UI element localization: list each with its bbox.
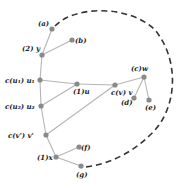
node-label-x: (1)x (37, 153, 53, 162)
edge-u2-vp (41, 106, 46, 135)
edge-u-v (77, 84, 115, 85)
node-label-y: (2) y (22, 44, 41, 53)
node-e (146, 97, 151, 102)
edge-u1-u (40, 80, 77, 84)
node-a (49, 26, 54, 31)
node-u2 (38, 103, 43, 108)
node-label-u: (1)u (73, 87, 90, 96)
edge-x-g (56, 157, 81, 166)
node-label-g: (g) (76, 170, 88, 179)
graph-diagram: (a)(b)(2) yc(u₁) u₁(1)uc(u₂) u₂c(v') v'(… (0, 0, 177, 188)
node-g (78, 163, 83, 168)
node-y (39, 52, 44, 57)
node-u1 (37, 77, 42, 82)
node-label-vp: c(v') v' (8, 131, 34, 140)
node-label-w: (c)w (131, 64, 149, 73)
node-label-a: (a) (38, 19, 49, 28)
edge-w-d (134, 77, 144, 98)
node-v (112, 82, 117, 87)
edge-x-f (56, 147, 79, 157)
node-b (69, 37, 74, 42)
node-label-f: (f) (81, 143, 91, 152)
node-label-v: c(v) v (111, 88, 133, 97)
edge-v-w (115, 77, 144, 85)
node-label-b: (b) (75, 36, 87, 45)
node-vp (43, 132, 48, 137)
edge-u2-u (41, 84, 77, 106)
node-label-u2: c(u₂) u₂ (5, 102, 35, 111)
node-label-e: (e) (145, 103, 156, 112)
graph-svg: (a)(b)(2) yc(u₁) u₁(1)uc(u₂) u₂c(v') v'(… (0, 0, 177, 188)
node-x (53, 154, 58, 159)
edge-u1-u2 (40, 80, 41, 106)
node-label-d: (d) (121, 98, 133, 107)
edge-w-e (144, 77, 149, 100)
node-u (74, 81, 79, 86)
node-w (141, 74, 146, 79)
node-label-u1: c(u₁) u₁ (5, 76, 35, 85)
edge-y-u1 (40, 55, 42, 80)
